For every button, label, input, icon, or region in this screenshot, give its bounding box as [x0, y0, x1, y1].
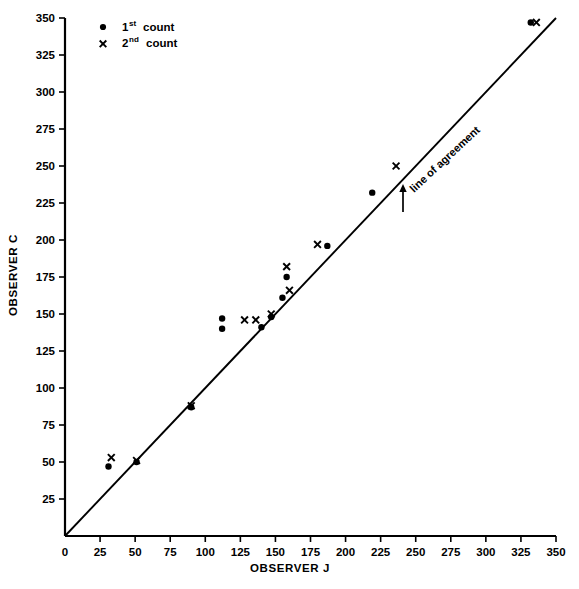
x-tick-labels: 0255075100125150175200225250275300325350 — [62, 546, 566, 558]
y-tick-label: 225 — [36, 197, 56, 209]
y-tick-label: 150 — [36, 308, 55, 320]
annotation-arrow-icon — [399, 184, 406, 212]
scatter-plot-figure: 255075100125150175200225250275300325350 … — [0, 0, 579, 589]
data-point-dot — [219, 315, 225, 321]
x-tick-label: 150 — [266, 546, 285, 558]
data-point-x — [286, 287, 293, 294]
data-point-dot — [279, 295, 285, 301]
x-tick-label: 100 — [196, 546, 215, 558]
legend-label-1st-main: 1 — [122, 21, 129, 33]
y-tick-label: 50 — [42, 456, 55, 468]
legend-x-icon — [100, 41, 107, 48]
annotation-label: line of agreement — [407, 123, 482, 194]
axis-y: 255075100125150175200225250275300325350 — [36, 12, 65, 536]
data-point-dot — [369, 189, 375, 195]
legend-label-1st-tail: count — [143, 21, 174, 33]
x-tick-label: 350 — [546, 546, 565, 558]
legend-entry-1st-count: 1 st count — [100, 19, 175, 33]
data-point-dot — [105, 463, 111, 469]
series-2nd-count-markers — [108, 19, 540, 464]
legend-dot-icon — [100, 24, 106, 30]
x-tick-label: 125 — [231, 546, 251, 558]
legend-label-2nd-main: 2 — [122, 37, 128, 49]
data-point-x — [252, 317, 259, 324]
y-tick-labels: 255075100125150175200225250275300325350 — [36, 12, 56, 505]
x-tick-label: 175 — [301, 546, 321, 558]
data-point-x — [533, 19, 540, 26]
data-point-dot — [258, 324, 264, 330]
plot-canvas: 255075100125150175200225250275300325350 … — [0, 0, 579, 589]
y-tick-label: 175 — [36, 271, 56, 283]
data-point-x — [393, 163, 400, 170]
x-tick-label: 225 — [371, 546, 391, 558]
y-tick-label: 100 — [36, 382, 55, 394]
y-tick-label: 300 — [36, 86, 55, 98]
legend-label-2nd-tail: count — [146, 37, 177, 49]
y-tick-label: 275 — [36, 123, 56, 135]
x-tick-label: 200 — [336, 546, 355, 558]
legend: 1 st count 2 nd count — [100, 19, 178, 49]
x-tick-label: 0 — [62, 546, 68, 558]
series-1st-count-markers — [105, 19, 534, 469]
legend-entry-2nd-count: 2 nd count — [100, 35, 178, 49]
data-point-x — [283, 263, 290, 270]
y-tick-label: 75 — [42, 419, 55, 431]
x-tick-label: 325 — [511, 546, 531, 558]
x-tick-label: 25 — [94, 546, 107, 558]
x-axis-title: OBSERVER J — [250, 562, 330, 574]
data-point-x — [314, 241, 321, 248]
y-tick-label: 250 — [36, 160, 55, 172]
x-tick-label: 50 — [129, 546, 142, 558]
axis-x: 0255075100125150175200225250275300325350 — [62, 536, 566, 558]
legend-label-1st-sup: st — [129, 19, 136, 28]
x-tick-label: 300 — [476, 546, 495, 558]
data-point-dot — [324, 243, 330, 249]
y-tick-label: 350 — [36, 12, 55, 24]
data-point-dot — [283, 274, 289, 280]
legend-label-2nd-sup: nd — [129, 35, 139, 44]
y-tick-label: 125 — [36, 345, 56, 357]
line-of-agreement-annotation: line of agreement — [399, 123, 482, 212]
x-tick-label: 250 — [406, 546, 425, 558]
x-tick-label: 275 — [441, 546, 461, 558]
x-tick-label: 75 — [164, 546, 177, 558]
y-tick-label: 325 — [36, 49, 56, 61]
data-point-x — [108, 454, 115, 461]
data-point-dot — [219, 326, 225, 332]
y-tick-label: 25 — [42, 493, 55, 505]
y-tick-label: 200 — [36, 234, 55, 246]
y-axis-title: OBSERVER C — [7, 234, 19, 316]
data-point-x — [241, 317, 248, 324]
